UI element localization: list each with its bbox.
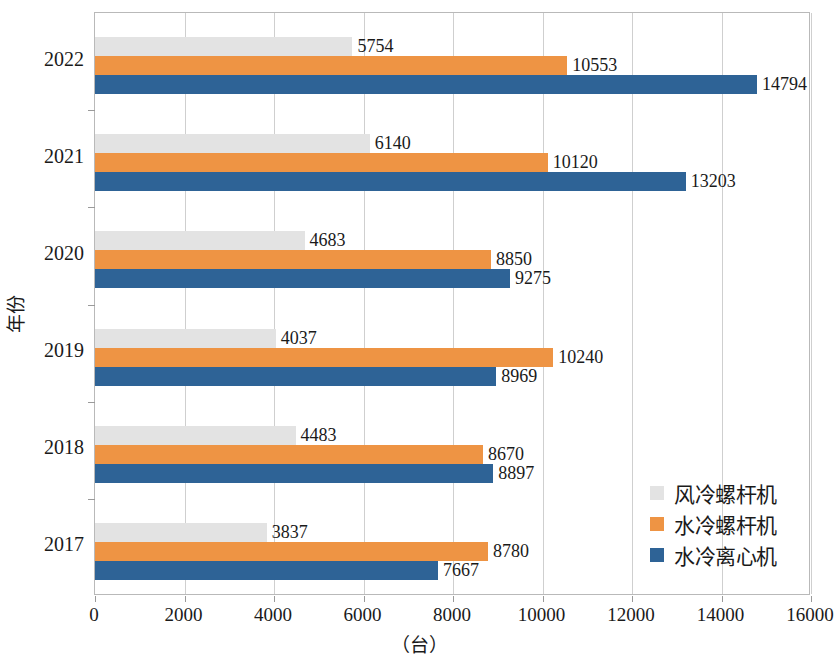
bar-value-label: 10120 [553,153,598,172]
bar-value-label: 8780 [493,542,529,561]
x-axis-tick [274,596,275,602]
bar [95,426,296,445]
bar-value-label: 8850 [496,250,532,269]
x-axis-title: （台） [0,630,839,657]
bar [95,523,267,542]
x-axis-tick [364,596,365,602]
bar [95,329,276,348]
bar-value-label: 10553 [572,56,617,75]
legend-item: 风冷螺杆机 [650,477,800,508]
bar-value-label: 4037 [281,329,317,348]
bar [95,348,553,367]
x-gridline [543,13,544,594]
bar-value-label: 7667 [443,561,479,580]
bar [95,172,686,191]
bar [95,75,757,94]
y-axis-tick [88,305,95,306]
y-axis-category-label: 2017 [8,533,84,556]
bar-value-label: 8670 [488,445,524,464]
legend-label: 水冷螺杆机 [674,509,777,539]
x-axis-tick [811,596,812,602]
y-axis-category-label: 2022 [8,48,84,71]
legend-swatch-icon [650,486,664,500]
bar-value-label: 4483 [301,426,337,445]
bar [95,37,352,56]
y-axis-tick [88,110,95,111]
bar-value-label: 9275 [515,269,551,288]
bar-value-label: 5754 [357,37,393,56]
bar [95,445,483,464]
x-gridline [185,13,186,594]
x-axis-tick [722,596,723,602]
bar-value-label: 3837 [272,523,308,542]
y-axis-tick [88,207,95,208]
y-axis-category-label: 2020 [8,242,84,265]
chart-figure: 5754105531479461401012013203468388509275… [0,0,839,657]
legend-swatch-icon [650,517,664,531]
bar-value-label: 8897 [498,464,534,483]
bar-value-label: 10240 [558,348,603,367]
y-axis-category-label: 2021 [8,145,84,168]
bar [95,250,491,269]
x-axis-tick [453,596,454,602]
x-axis-tick [632,596,633,602]
bar [95,561,438,580]
x-axis-tick [543,596,544,602]
bar-value-label: 13203 [691,172,736,191]
x-gridline [632,13,633,594]
y-axis-category-label: 2018 [8,436,84,459]
legend-item: 水冷螺杆机 [650,508,800,539]
bar [95,464,493,483]
legend-swatch-icon [650,548,664,562]
x-axis-tick-label: 16000 [750,604,839,626]
y-axis-category-label: 2019 [8,339,84,362]
bar-value-label: 14794 [762,75,807,94]
x-gridline [364,13,365,594]
x-gridline [274,13,275,594]
bar [95,153,548,172]
legend-label: 水冷离心机 [674,540,777,570]
bar [95,231,305,250]
bar [95,542,488,561]
bar-value-label: 4683 [310,231,346,250]
bar [95,56,567,75]
bar-value-label: 6140 [375,134,411,153]
bar-value-label: 8969 [501,367,537,386]
bar [95,269,510,288]
legend-item: 水冷离心机 [650,539,800,570]
legend-label: 风冷螺杆机 [674,478,777,508]
bar [95,134,370,153]
x-gridline [811,13,812,594]
x-gridline [453,13,454,594]
y-axis-tick [88,402,95,403]
bar [95,367,496,386]
y-axis-tick [88,499,95,500]
y-axis-title: 年份 [1,284,28,344]
x-axis-tick [185,596,186,602]
chart-legend: 风冷螺杆机水冷螺杆机水冷离心机 [650,477,800,570]
x-axis-tick [95,596,96,602]
